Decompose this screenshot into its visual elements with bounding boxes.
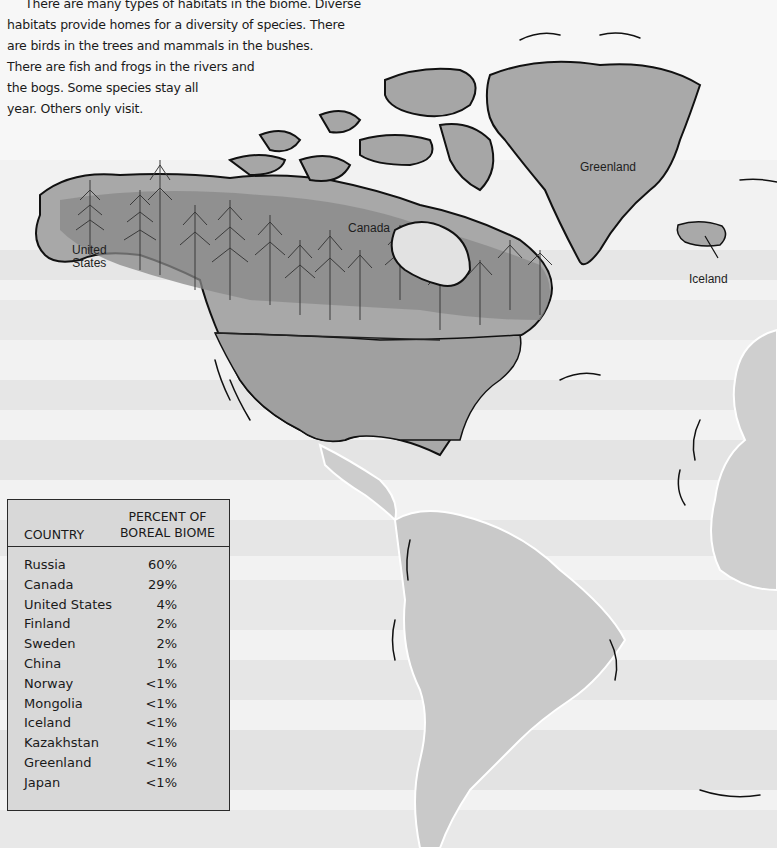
- table-header: COUNTRY PERCENT OF BOREAL BIOME: [8, 500, 229, 547]
- cell-percent: 2%: [156, 636, 177, 651]
- cell-country: Japan: [24, 775, 60, 790]
- cell-percent: 4%: [156, 597, 177, 612]
- table-row: Canada29%: [8, 576, 229, 596]
- cell-country: China: [24, 656, 61, 671]
- united-states-landmass: [215, 333, 521, 441]
- cell-percent: 29%: [148, 577, 177, 592]
- table-row: Kazakhstan<1%: [8, 734, 229, 754]
- cell-country: Sweden: [24, 636, 75, 651]
- table-row: Sweden2%: [8, 635, 229, 655]
- south-america-landmass: [395, 511, 625, 848]
- cell-country: United States: [24, 597, 112, 612]
- cell-country: Russia: [24, 557, 66, 572]
- table-row: Japan<1%: [8, 774, 229, 794]
- cell-country: Mongolia: [24, 696, 83, 711]
- central-america-landmass: [320, 445, 396, 520]
- intro-line: There are fish and frogs in the rivers a…: [7, 56, 337, 77]
- header-percent-line: PERCENT OF: [120, 509, 215, 525]
- cell-percent: 60%: [148, 557, 177, 572]
- intro-line: habitats provide homes for a diversity o…: [7, 14, 337, 35]
- table-row: Greenland<1%: [8, 754, 229, 774]
- cell-percent: <1%: [145, 755, 177, 770]
- intro-line: year. Others only visit.: [7, 98, 337, 119]
- cell-percent: <1%: [145, 696, 177, 711]
- boreal-biome-table: COUNTRY PERCENT OF BOREAL BIOME Russia60…: [7, 499, 230, 811]
- intro-line: There are many types of habitats in the …: [7, 0, 337, 14]
- cell-percent: <1%: [145, 735, 177, 750]
- intro-line: are birds in the trees and mammals in th…: [7, 35, 337, 56]
- table-row: Finland2%: [8, 615, 229, 635]
- cell-country: Norway: [24, 676, 73, 691]
- cell-country: Iceland: [24, 715, 71, 730]
- intro-line: the bogs. Some species stay all: [7, 77, 337, 98]
- cell-percent: 2%: [156, 616, 177, 631]
- cell-percent: <1%: [145, 775, 177, 790]
- header-percent: PERCENT OF BOREAL BIOME: [120, 509, 215, 541]
- label-iceland: Iceland: [689, 273, 728, 286]
- header-country: COUNTRY: [24, 527, 84, 542]
- table-row: Mongolia<1%: [8, 695, 229, 715]
- table-row: China1%: [8, 655, 229, 675]
- cell-country: Kazakhstan: [24, 735, 99, 750]
- intro-paragraph: There are many types of habitats in the …: [7, 0, 337, 119]
- table-row: United States4%: [8, 596, 229, 616]
- cell-country: Canada: [24, 577, 73, 592]
- label-greenland: Greenland: [580, 161, 636, 174]
- table-row: Iceland<1%: [8, 714, 229, 734]
- cell-country: Greenland: [24, 755, 91, 770]
- label-canada: Canada: [348, 222, 390, 235]
- table-body: Russia60% Canada29% United States4% Finl…: [8, 547, 229, 794]
- cell-percent: 1%: [156, 656, 177, 671]
- label-line: States: [72, 257, 107, 270]
- boreal-forest-band: [60, 191, 550, 320]
- cell-percent: <1%: [145, 715, 177, 730]
- iceland-landmass: [677, 222, 725, 246]
- table-row: Norway<1%: [8, 675, 229, 695]
- cell-percent: <1%: [145, 676, 177, 691]
- africa-landmass: [711, 330, 777, 590]
- table-row: Russia60%: [8, 556, 229, 576]
- header-percent-line: BOREAL BIOME: [120, 525, 215, 541]
- label-united-states: United States: [72, 244, 107, 270]
- cell-country: Finland: [24, 616, 70, 631]
